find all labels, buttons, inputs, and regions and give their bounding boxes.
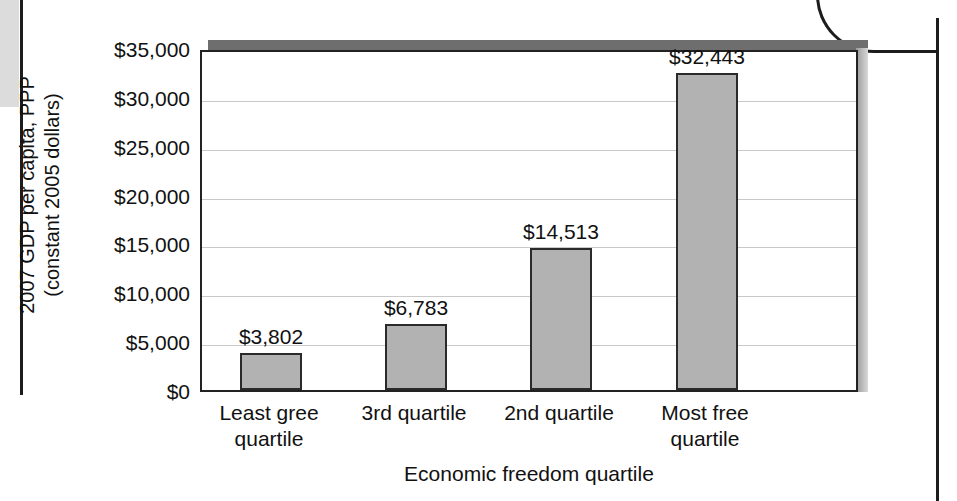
y-tick-label: $30,000 xyxy=(78,87,190,111)
x-tick-label-line-1: 3rd quartile xyxy=(334,400,494,426)
bar-value-label: $32,443 xyxy=(642,45,772,69)
y-axis-title: 2007 GDP per capita, PPP (constant 2005 … xyxy=(15,45,65,345)
bar-3rd-quartile[interactable] xyxy=(385,324,447,390)
x-tick-label-most-free-quartile: Most free quartile xyxy=(625,400,785,452)
bar-least-free-quartile[interactable] xyxy=(240,353,302,390)
bar-chart: 2007 GDP per capita, PPP (constant 2005 … xyxy=(0,0,957,501)
x-tick-label-line-1: Most free xyxy=(625,400,785,426)
y-axis-title-line-2: (constant 2005 dollars) xyxy=(40,45,65,345)
x-tick-label-2nd-quartile: 2nd quartile xyxy=(479,400,639,426)
x-tick-label-line-1: Least gree xyxy=(189,400,349,426)
x-axis-title: Economic freedom quartile xyxy=(200,462,858,486)
y-axis-title-line-1: 2007 GDP per capita, PPP xyxy=(15,45,40,345)
y-tick-label: $20,000 xyxy=(78,185,190,209)
y-tick-label: $5,000 xyxy=(78,331,190,355)
y-tick-label: $35,000 xyxy=(78,38,190,62)
y-axis-tick-labels: $35,000 $30,000 $25,000 $20,000 $15,000 … xyxy=(78,50,190,392)
x-tick-label-3rd-quartile: 3rd quartile xyxy=(334,400,494,426)
y-tick-label: $25,000 xyxy=(78,136,190,160)
bar-value-label: $14,513 xyxy=(496,220,626,244)
chart-page: 2007 GDP per capita, PPP (constant 2005 … xyxy=(0,0,957,501)
y-tick-label: $0 xyxy=(78,380,190,404)
bar-value-label: $3,802 xyxy=(211,325,331,349)
x-tick-label-line-2: quartile xyxy=(189,426,349,452)
bar-value-label: $6,783 xyxy=(356,296,476,320)
y-tick-label: $15,000 xyxy=(78,233,190,257)
plot-area: $3,802 $6,783 $14,513 $32,443 xyxy=(200,50,858,392)
y-tick-label: $10,000 xyxy=(78,282,190,306)
bar-2nd-quartile[interactable] xyxy=(530,248,592,390)
x-tick-label-least-free-quartile: Least gree quartile xyxy=(189,400,349,452)
x-tick-label-line-1: 2nd quartile xyxy=(479,400,639,426)
bar-most-free-quartile[interactable] xyxy=(676,73,738,390)
x-tick-label-line-2: quartile xyxy=(625,426,785,452)
x-axis-tick-labels: Least gree quartile 3rd quartile 2nd qua… xyxy=(200,400,858,456)
bar-series: $3,802 $6,783 $14,513 $32,443 xyxy=(202,52,856,390)
